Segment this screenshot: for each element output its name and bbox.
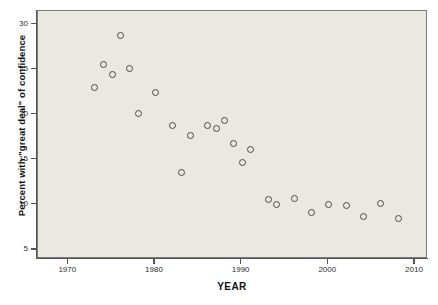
data-point (169, 122, 176, 129)
data-point (135, 110, 142, 117)
data-point (213, 125, 220, 132)
y-axis-line (36, 10, 37, 259)
x-axis-line (36, 258, 428, 259)
x-tick (327, 259, 328, 264)
data-point (247, 146, 254, 153)
x-tick-label: 1980 (134, 265, 174, 274)
x-tick (413, 259, 414, 264)
plot-frame (37, 10, 427, 258)
data-point (100, 61, 107, 68)
data-point (178, 169, 185, 176)
x-tick (67, 259, 68, 264)
y-tick (31, 158, 36, 159)
data-point (360, 213, 367, 220)
data-point (377, 200, 384, 207)
y-tick (31, 68, 36, 69)
data-point (117, 32, 124, 39)
data-point (109, 71, 116, 78)
data-point (230, 140, 237, 147)
x-tick-label: 2010 (394, 265, 434, 274)
data-point (325, 201, 332, 208)
x-tick-label: 1970 (47, 265, 87, 274)
y-tick (31, 113, 36, 114)
x-tick-label: 2000 (307, 265, 347, 274)
data-point (152, 89, 159, 96)
plot-data-area (38, 11, 426, 257)
data-point (239, 159, 246, 166)
x-tick-label: 1990 (221, 265, 261, 274)
data-point (91, 84, 98, 91)
data-point (221, 117, 228, 124)
data-point (273, 201, 280, 208)
y-axis-title: Percent with "great deal" of confidence (16, 1, 27, 251)
data-point (126, 65, 133, 72)
data-point (265, 196, 272, 203)
data-point (308, 209, 315, 216)
data-point (395, 215, 402, 222)
x-tick (153, 259, 154, 264)
x-axis-title: YEAR (37, 281, 427, 292)
y-tick (31, 248, 36, 249)
y-tick (31, 203, 36, 204)
data-point (204, 122, 211, 129)
data-point (187, 132, 194, 139)
y-tick (31, 23, 36, 24)
x-tick (240, 259, 241, 264)
data-point (343, 202, 350, 209)
data-point (291, 195, 298, 202)
scatter-plot-figure: 51015202530 19701980199020002010 Percent… (0, 0, 438, 305)
